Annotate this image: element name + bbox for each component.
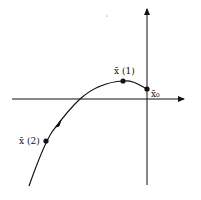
label-x2: x̄ (2)	[19, 136, 40, 146]
diagram-canvas: x̄ (1) x̄₀ x̄ (2)	[0, 0, 201, 200]
point-x0	[144, 86, 149, 91]
point-x2	[43, 138, 48, 143]
label-x0: x̄₀	[151, 89, 160, 99]
direction-arrow-icon	[56, 120, 61, 127]
point-x1	[120, 78, 125, 83]
speck	[106, 15, 107, 16]
label-x1: x̄ (1)	[114, 66, 135, 76]
trajectory-curve	[29, 81, 147, 186]
